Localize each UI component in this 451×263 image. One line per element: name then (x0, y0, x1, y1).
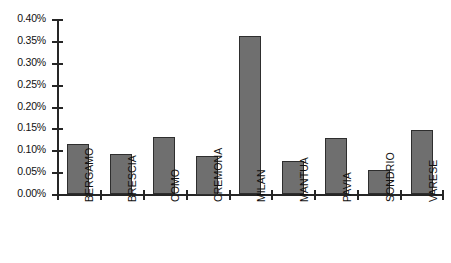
x-axis-tick-label: COMO (169, 169, 181, 202)
y-axis-tick (52, 41, 63, 43)
x-axis-tick (143, 190, 145, 200)
x-axis-tick (186, 190, 188, 200)
x-axis-tick (271, 190, 273, 200)
y-axis-tick-label: 0.10% (0, 143, 46, 155)
y-axis-tick (52, 63, 63, 65)
y-axis-tick (52, 85, 63, 87)
y-axis-tick-label: 0.25% (0, 78, 46, 90)
y-axis-tick-label: 0.40% (0, 12, 46, 24)
x-axis-tick-label: VARESE (427, 160, 439, 202)
x-axis-tick (57, 190, 59, 200)
y-axis-tick-label: 0.15% (0, 121, 46, 133)
x-axis-tick (357, 190, 359, 200)
y-axis-tick-label: 0.30% (0, 56, 46, 68)
x-axis-tick-label: BRESCIA (126, 155, 138, 202)
x-axis-tick-label: PAVIA (341, 172, 353, 202)
x-axis-tick-label: BERGAMO (83, 148, 95, 202)
x-axis-tick-label: SONDRIO (384, 152, 396, 202)
x-axis-tick-label: CREMONA (212, 148, 224, 202)
y-axis-tick (52, 150, 63, 152)
x-axis-tick (100, 190, 102, 200)
x-axis-tick (314, 190, 316, 200)
y-axis-tick-label: 0.00% (0, 187, 46, 199)
x-axis-tick-label: MANTUA (298, 157, 310, 202)
y-axis-tick-label: 0.35% (0, 34, 46, 46)
y-axis-tick (52, 128, 63, 130)
x-axis-tick-end (442, 190, 444, 200)
y-axis-tick (52, 19, 63, 21)
y-axis-tick (52, 172, 63, 174)
y-axis-tick-label: 0.05% (0, 165, 46, 177)
bar-chart: 0.00%0.05%0.10%0.15%0.20%0.25%0.30%0.35%… (0, 0, 451, 263)
x-axis-tick-label: MILAN (255, 169, 267, 202)
x-axis-tick (229, 190, 231, 200)
x-axis-tick (400, 190, 402, 200)
y-axis-tick-label: 0.20% (0, 100, 46, 112)
y-axis-tick (52, 107, 63, 109)
